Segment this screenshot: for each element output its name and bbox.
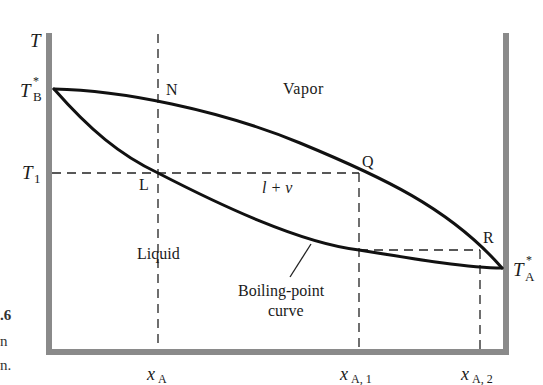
svg-text:1: 1 <box>34 171 41 186</box>
svg-text:A, 1: A, 1 <box>351 372 372 385</box>
point-label-q: Q <box>362 153 374 170</box>
x-tick-xa1: x A, 1 <box>339 364 372 385</box>
left-axis <box>46 33 52 354</box>
region-label-liquid: Liquid <box>137 245 180 263</box>
region-label-two-phase: l + v <box>262 179 293 196</box>
bottom-axis <box>46 349 509 355</box>
x-tick-xa2: x A, 2 <box>460 364 493 385</box>
svg-text:x: x <box>460 364 469 384</box>
x-tick-xa: x A <box>146 364 167 385</box>
svg-text:x: x <box>339 364 348 384</box>
right-axis <box>503 33 509 354</box>
y-axis-label: T <box>30 30 42 51</box>
label-t1: T 1 <box>22 162 41 186</box>
region-label-vapor: Vapor <box>283 80 324 98</box>
svg-text:x: x <box>146 364 155 384</box>
boiling-point-leader-line <box>290 244 311 277</box>
svg-text:T: T <box>22 162 34 183</box>
phase-diagram: T T * B T 1 T * A N L Q R Vapor l + v Li… <box>0 0 543 385</box>
svg-text:A, 2: A, 2 <box>472 372 493 385</box>
point-label-l: L <box>139 176 149 193</box>
svg-text:*: * <box>33 74 39 88</box>
svg-text:T: T <box>513 259 525 280</box>
svg-text:A: A <box>525 269 535 284</box>
svg-text:*: * <box>526 253 532 267</box>
annotation-curve: curve <box>268 302 304 319</box>
label-tb-star: T * B <box>20 74 42 104</box>
point-label-n: N <box>166 81 178 98</box>
svg-text:A: A <box>158 372 167 385</box>
svg-text:B: B <box>33 89 42 104</box>
annotation-boiling-point: Boiling-point <box>238 282 325 300</box>
point-label-r: R <box>483 229 494 246</box>
svg-text:T: T <box>20 80 32 101</box>
label-ta-star: T * A <box>513 253 535 284</box>
